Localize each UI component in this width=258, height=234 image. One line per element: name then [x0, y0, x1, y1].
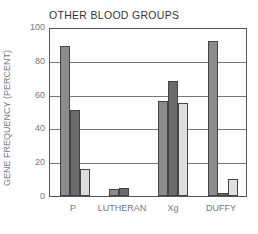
bar-duffy-series-1: [208, 41, 218, 196]
x-tick-label: Xg: [167, 203, 178, 213]
chart-title: OTHER BLOOD GROUPS: [49, 9, 179, 21]
x-tick-label: P: [70, 203, 76, 213]
bar-lutheran-series-2: [119, 188, 129, 196]
bar-duffy-series-2: [218, 193, 228, 196]
y-tick-label: 100: [15, 22, 45, 32]
bar-xg-series-1: [158, 101, 168, 196]
x-tick-label: DUFFY: [206, 203, 236, 213]
y-tick-label: 20: [15, 157, 45, 167]
y-tick-label: 40: [15, 123, 45, 133]
bar-p-series-2: [70, 110, 80, 196]
y-tick-label: 0: [15, 191, 45, 201]
bar-xg-series-3: [178, 103, 188, 196]
bar-p-series-1: [60, 46, 70, 196]
bar-p-series-3: [80, 169, 90, 196]
bar-duffy-series-3: [228, 179, 238, 196]
bar-lutheran-series-1: [109, 189, 119, 196]
y-tick-label: 60: [15, 90, 45, 100]
x-tick-label: LUTHERAN: [98, 203, 147, 213]
plot-area: [49, 28, 247, 197]
bar-xg-series-2: [168, 81, 178, 196]
y-tick-label: 80: [15, 56, 45, 66]
